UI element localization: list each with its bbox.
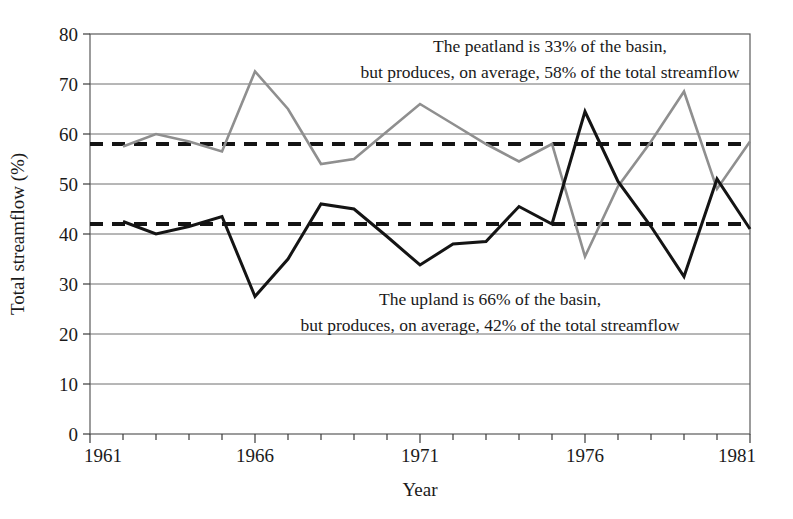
y-axis-title: Total streamflow (%) — [7, 153, 29, 315]
x-tick-label-1971: 1971 — [401, 445, 439, 466]
y-tick-label-40: 40 — [59, 224, 78, 245]
x-tick-label-1966: 1966 — [236, 445, 274, 466]
x-tick-label-1976: 1976 — [566, 445, 604, 466]
y-tick-label-10: 10 — [59, 374, 78, 395]
peatland-annotation-line1: The peatland is 33% of the basin, — [433, 36, 667, 56]
x-tick-label-1961: 1961 — [84, 445, 122, 466]
y-tick-label-50: 50 — [59, 174, 78, 195]
x-axis-title: Year — [402, 479, 438, 500]
y-tick-label-30: 30 — [59, 274, 78, 295]
chart-figure: 80706050403020100 19611966197119761981 T… — [0, 0, 793, 519]
x-tick-label-1981: 1981 — [718, 445, 756, 466]
y-tick-labels-group: 80706050403020100 — [59, 24, 78, 445]
y-tick-label-20: 20 — [59, 324, 78, 345]
y-tick-label-60: 60 — [59, 124, 78, 145]
peatland-annotation-line2: but produces, on average, 58% of the tot… — [360, 62, 739, 82]
upland-annotation-line2: but produces, on average, 42% of the tot… — [300, 315, 679, 335]
y-tick-label-80: 80 — [59, 24, 78, 45]
upland-annotation-line1: The upland is 66% of the basin, — [379, 289, 601, 309]
chart-svg: 80706050403020100 19611966197119761981 T… — [0, 0, 793, 519]
y-tick-label-0: 0 — [69, 424, 79, 445]
y-tick-label-70: 70 — [59, 74, 78, 95]
